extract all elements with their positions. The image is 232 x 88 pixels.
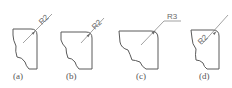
panel-d: R2 (d) — [191, 15, 228, 81]
caption-c: (c) — [136, 71, 146, 81]
part-outline-a — [13, 29, 37, 69]
panel-b: R2 (b) — [61, 17, 104, 81]
part-outline-b — [61, 32, 92, 69]
caption-a: (a) — [13, 71, 23, 81]
panel-c: R3 (c) — [119, 12, 181, 81]
caption-d: (d) — [199, 71, 210, 81]
dimension-label-c: R3 — [167, 12, 178, 21]
panel-a: R2 (a) — [13, 12, 52, 81]
part-outline-c — [119, 31, 158, 69]
dimension-label-b: R2 — [90, 17, 104, 31]
caption-b: (b) — [66, 71, 77, 81]
fillet-radius-dimension-figure: R2 (a) R2 (b) R3 (c) R2 (d) — [0, 0, 232, 88]
leader-line-c — [141, 21, 181, 45]
dimension-label-d: R2 — [196, 32, 210, 46]
dimension-label-a: R2 — [37, 12, 51, 26]
